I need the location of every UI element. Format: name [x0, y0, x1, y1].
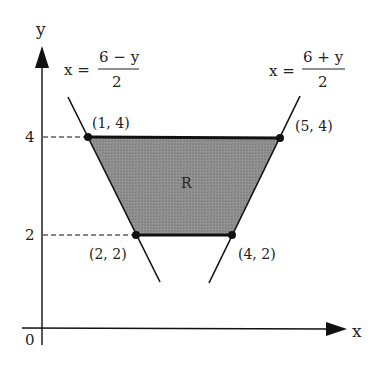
- left-eq-numerator: 6 − y: [99, 48, 140, 66]
- y-tick-2: 2: [25, 226, 35, 244]
- y-axis-label: y: [35, 19, 46, 39]
- origin-label: 0: [25, 331, 35, 349]
- point-5-4: [276, 134, 284, 142]
- point-label-4-2: (4, 2): [238, 246, 276, 262]
- right-eq-numerator: 6 + y: [303, 48, 344, 66]
- x-axis: [22, 328, 330, 329]
- point-4-2: [228, 231, 236, 239]
- region-diagram: y x 0 4 2 x = 6 − y 2 x = 6 + y 2 R (1, …: [0, 0, 383, 375]
- point-label-5-4: (5, 4): [295, 118, 333, 134]
- x-axis-label: x: [352, 321, 362, 341]
- y-axis-arrow-icon: [35, 46, 49, 68]
- point-label-2-2: (2, 2): [89, 246, 127, 262]
- left-eq-lhs: x =: [64, 61, 90, 79]
- left-eq-denominator: 2: [112, 73, 122, 91]
- region-label: R: [181, 175, 192, 191]
- y-tick-4: 4: [25, 128, 35, 146]
- point-label-1-4: (1, 4): [92, 115, 130, 131]
- x-axis-arrow-icon: [326, 322, 347, 336]
- top-edge: [88, 137, 280, 138]
- point-1-4: [84, 133, 92, 141]
- right-eq-denominator: 2: [318, 73, 328, 91]
- point-2-2: [132, 231, 140, 239]
- right-eq-lhs: x =: [269, 62, 295, 80]
